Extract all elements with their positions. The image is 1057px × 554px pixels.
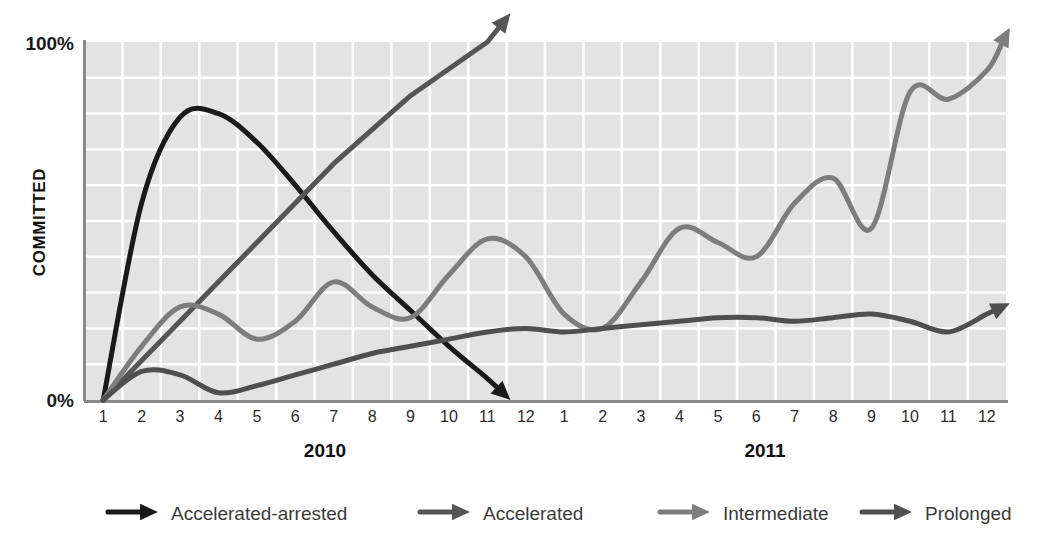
- x-tick-label: 2: [598, 408, 607, 425]
- x-tick-label: 9: [867, 408, 876, 425]
- legend-arrow-icon: [894, 504, 912, 521]
- x-tick-label: 3: [637, 408, 646, 425]
- x-tick-label: 10: [440, 408, 458, 425]
- x-tick-label: 10: [901, 408, 919, 425]
- x-tick-label: 1: [560, 408, 569, 425]
- chart-legend: Accelerated-arrestedAcceleratedIntermedi…: [108, 503, 1012, 524]
- x-tick-label: 4: [675, 408, 684, 425]
- legend-arrow-icon: [452, 504, 470, 521]
- x-tick-label: 8: [368, 408, 377, 425]
- x-tick-label: 3: [176, 408, 185, 425]
- x-tick-label: 2: [137, 408, 146, 425]
- legend-label-accelerated: Accelerated: [483, 503, 583, 524]
- legend-arrow-icon: [692, 504, 710, 521]
- x-tick-label: 7: [329, 408, 338, 425]
- trajectory-line-chart: 100% 0% COMMITTED 1234567891011121234567…: [0, 0, 1057, 554]
- x-tick-label: 5: [713, 408, 722, 425]
- x-tick-label: 4: [214, 408, 223, 425]
- year-label-2011: 2011: [744, 440, 786, 461]
- y-axis-title: COMMITTED: [30, 168, 49, 276]
- x-tick-label: 12: [978, 408, 996, 425]
- x-tick-label: 11: [479, 408, 496, 425]
- x-tick-label: 12: [517, 408, 535, 425]
- x-tick-label: 9: [406, 408, 415, 425]
- legend-label-accelerated-arrested: Accelerated-arrested: [171, 503, 347, 524]
- x-tick-label: 7: [790, 408, 799, 425]
- legend-arrow-icon: [140, 504, 158, 521]
- legend-label-prolonged: Prolonged: [925, 503, 1012, 524]
- y-tick-0: 0%: [47, 390, 75, 411]
- y-tick-100: 100%: [25, 33, 74, 54]
- x-tick-label: 6: [291, 408, 300, 425]
- x-tick-label: 8: [829, 408, 838, 425]
- x-tick-label: 1: [99, 408, 108, 425]
- x-tick-label: 11: [940, 408, 957, 425]
- x-tick-label: 5: [252, 408, 261, 425]
- legend-label-intermediate: Intermediate: [723, 503, 829, 524]
- x-tick-label: 6: [752, 408, 761, 425]
- chart-container: 100% 0% COMMITTED 1234567891011121234567…: [0, 0, 1057, 554]
- x-tick-labels: 123456789101112123456789101112: [99, 408, 996, 425]
- year-label-2010: 2010: [304, 440, 346, 461]
